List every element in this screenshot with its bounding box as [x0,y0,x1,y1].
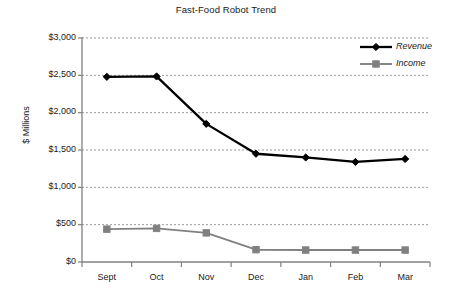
legend-marker-income [373,61,379,67]
legend-label-revenue: Revenue [396,41,432,51]
y-axis-tick-label: $2,000 [28,106,76,116]
y-axis-tick-label: $1,000 [28,181,76,191]
data-point-income-jan [303,247,309,253]
x-axis-tick-label-mar: Mar [397,272,413,282]
legend-label-income: Income [396,58,426,68]
data-point-revenue-feb [352,158,359,165]
y-axis-tick-labels: $0$500$1,000$1,500$2,000$2,500$3,000 [24,0,76,304]
data-point-income-sept [104,226,110,232]
data-point-revenue-jan [302,154,309,161]
data-point-revenue-sept [103,73,110,80]
legend-marker-revenue [372,43,379,50]
y-axis-tick-label: $3,000 [28,32,76,42]
data-point-income-feb [352,247,358,253]
data-point-income-dec [253,246,259,252]
chart-container: Fast-Food Robot Trend $ Millions $0$500$… [0,0,452,304]
data-point-income-oct [153,225,159,231]
x-axis-tick-label-sept: Sept [98,272,117,282]
y-axis-tick-label: $1,500 [28,144,76,154]
x-axis-tick-label-oct: Oct [150,272,164,282]
data-point-revenue-mar [402,155,409,162]
y-axis-tick-label: $2,500 [28,69,76,79]
x-axis-tick-label-feb: Feb [348,272,364,282]
y-axis-tick-label: $0 [28,256,76,266]
x-axis-tick-label-dec: Dec [248,272,264,282]
x-axis-tick-label-jan: Jan [298,272,313,282]
series-line-revenue [107,76,405,162]
y-axis-tick-label: $500 [28,218,76,228]
x-axis-tick-label-nov: Nov [198,272,214,282]
data-point-income-nov [203,230,209,236]
data-point-income-mar [402,247,408,253]
